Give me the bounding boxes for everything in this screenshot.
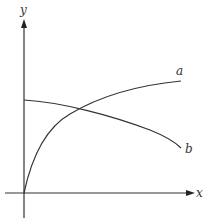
x-axis-label: x [196, 186, 203, 200]
curve-b [24, 100, 181, 148]
graph-canvas: y x a b [0, 0, 203, 224]
y-axis-arrow-icon [21, 19, 27, 28]
curve-a [24, 81, 181, 193]
y-axis-label: y [19, 3, 27, 17]
curve-b-label: b [185, 142, 193, 156]
x-axis-arrow-icon [186, 190, 195, 196]
curve-a-label: a [176, 64, 183, 78]
